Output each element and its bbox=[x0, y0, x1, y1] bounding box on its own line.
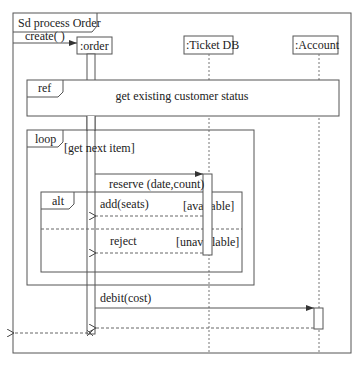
sequence-diagram: Sd process Order :order :Ticket DB :Acco… bbox=[0, 0, 362, 365]
ref-text: get existing customer status bbox=[116, 89, 249, 103]
lifeline-ticket-db-label: :Ticket DB bbox=[186, 38, 239, 52]
message-create-label: create( ) bbox=[25, 29, 65, 43]
loop-guard: [get next item] bbox=[64, 141, 135, 155]
account-activation bbox=[314, 308, 323, 329]
lifeline-account-label: :Account bbox=[295, 38, 340, 52]
alt-operator: alt bbox=[52, 194, 65, 208]
ref-operator: ref bbox=[38, 81, 51, 95]
frame-title: Sd process Order bbox=[18, 16, 101, 30]
ref-fragment: ref get existing customer status bbox=[27, 80, 339, 116]
ticket-db-activation bbox=[203, 174, 212, 255]
message-return-caller bbox=[14, 330, 93, 336]
lifeline-order-label: :order bbox=[80, 39, 109, 53]
loop-operator: loop bbox=[35, 132, 56, 146]
message-reject-label: reject bbox=[110, 234, 137, 248]
message-create: create( ) bbox=[13, 29, 77, 43]
message-reserve-label: reserve (date,count) bbox=[109, 177, 204, 191]
message-reserve: reserve (date,count) bbox=[95, 174, 204, 191]
message-debit-label: debit(cost) bbox=[100, 291, 151, 305]
message-add-seats-label: add(seats) bbox=[100, 197, 149, 211]
message-debit: debit(cost) bbox=[95, 291, 314, 308]
